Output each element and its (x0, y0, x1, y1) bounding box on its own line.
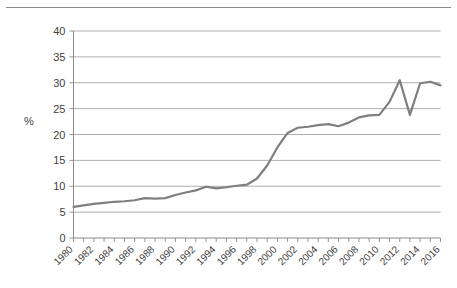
chart-figure: % 0510152025303540 198019821984198619881… (0, 0, 457, 288)
x-tick-label: 1982 (72, 243, 96, 267)
y-tick-label: 40 (53, 25, 65, 37)
x-tick-label: 2008 (337, 243, 361, 267)
y-tick-label: 25 (53, 103, 65, 115)
y-tick-labels-group: 0510152025303540 (53, 25, 65, 244)
x-tick-label: 2016 (418, 243, 442, 267)
x-tick-label: 2000 (255, 243, 279, 267)
x-tick-label: 2014 (398, 243, 422, 267)
y-tick-label: 20 (53, 129, 65, 141)
y-tick-label: 15 (53, 154, 65, 166)
y-tick-label: 35 (53, 51, 65, 63)
x-tick-label: 1984 (92, 243, 116, 267)
x-tick-label: 2006 (316, 243, 340, 267)
gridlines-group (74, 31, 441, 212)
x-tick-label: 2002 (276, 243, 300, 267)
x-tick-label: 1994 (194, 243, 218, 267)
data-series-line (74, 80, 441, 207)
x-tick-label: 1986 (113, 243, 137, 267)
y-tick-label: 30 (53, 77, 65, 89)
x-tick-label: 1992 (174, 243, 198, 267)
x-tick-label: 1990 (153, 243, 177, 267)
x-tick-label: 1998 (235, 243, 259, 267)
x-tick-label: 1988 (133, 243, 157, 267)
x-tick-marks-group (74, 238, 441, 242)
y-tick-label: 10 (53, 180, 65, 192)
y-tick-label: 5 (59, 206, 65, 218)
x-tick-labels-group: 1980198219841986198819901992199419961998… (51, 243, 442, 267)
y-tick-label: 0 (59, 232, 65, 244)
x-tick-label: 2010 (357, 243, 381, 267)
x-tick-label: 2012 (378, 243, 402, 267)
x-tick-label: 1996 (215, 243, 239, 267)
x-tick-label: 1980 (51, 243, 75, 267)
line-chart-plot: 0510152025303540 19801982198419861988199… (0, 0, 457, 288)
x-tick-label: 2004 (296, 243, 320, 267)
